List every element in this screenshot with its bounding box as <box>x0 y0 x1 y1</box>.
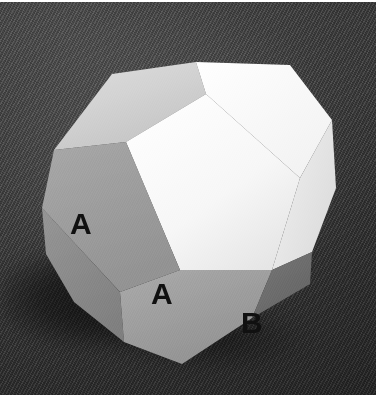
face-label-b: B <box>241 308 263 338</box>
face-label-a-lower: A <box>151 279 173 309</box>
polyhedron-model <box>0 2 376 395</box>
photo-frame: A A B <box>0 0 386 398</box>
photograph-plate: A A B <box>0 2 376 395</box>
face-label-a-upper: A <box>70 209 92 239</box>
paper-margin-right <box>376 0 386 398</box>
